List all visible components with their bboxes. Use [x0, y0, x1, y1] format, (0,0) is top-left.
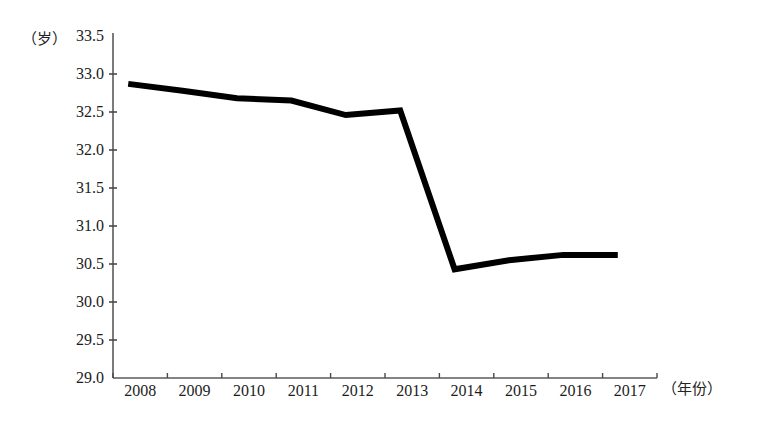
chart-axes: [109, 33, 657, 378]
data-series-line: [128, 84, 618, 269]
line-chart-plot: [0, 0, 758, 434]
chart-figure: （岁） （年份） 33.533.032.532.031.531.030.530.…: [0, 0, 758, 434]
